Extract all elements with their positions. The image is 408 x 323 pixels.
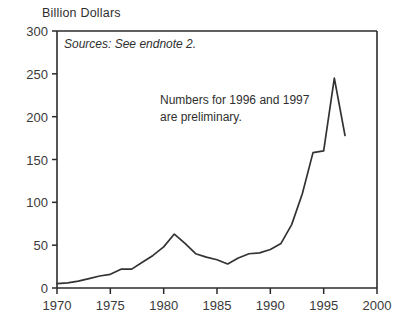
x-axis-tick-label: 2000 [363, 298, 392, 313]
chart-data-series [57, 78, 345, 284]
x-axis-tick-label: 1980 [149, 298, 178, 313]
y-axis-tick-label: 0 [41, 281, 48, 296]
x-axis-tick-label: 1985 [203, 298, 232, 313]
line-chart-plot: 0501001502002503001970197519801985199019… [0, 0, 408, 323]
chart-container: Billion Dollars Sources: See endnote 2. … [0, 0, 408, 323]
chart-axes [52, 31, 377, 294]
y-axis-tick-label: 300 [26, 24, 48, 39]
x-axis-tick-label: 1990 [256, 298, 285, 313]
y-axis-tick-label: 50 [34, 238, 48, 253]
y-axis-tick-label: 100 [26, 195, 48, 210]
chart-tick-labels: 0501001502002503001970197519801985199019… [26, 24, 391, 313]
x-axis-tick-label: 1975 [96, 298, 125, 313]
y-axis-tick-label: 150 [26, 153, 48, 168]
x-axis-tick-label: 1995 [309, 298, 338, 313]
data-line-billion-dollars [57, 78, 345, 284]
x-axis-tick-label: 1970 [43, 298, 72, 313]
y-axis-tick-label: 200 [26, 110, 48, 125]
y-axis-tick-label: 250 [26, 67, 48, 82]
